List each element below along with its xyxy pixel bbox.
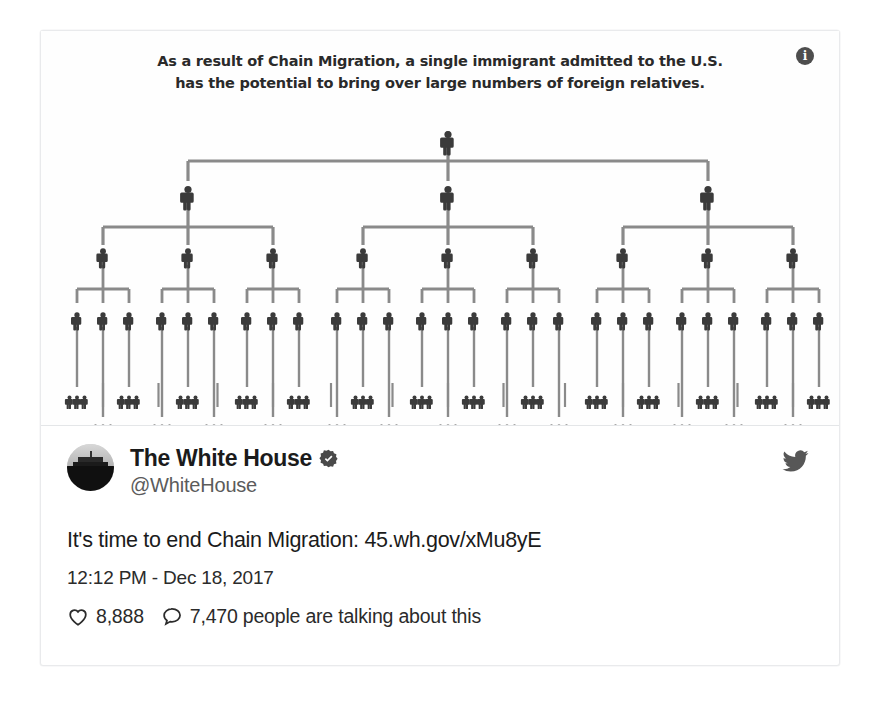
tree-person-figure bbox=[351, 396, 359, 410]
tree-person-figure bbox=[325, 425, 333, 426]
tweet-header: The White House @WhiteHouse bbox=[67, 444, 813, 498]
tree-person-figure bbox=[547, 425, 555, 426]
account-display-name[interactable]: The White House bbox=[130, 445, 312, 471]
tree-person-figure bbox=[462, 396, 470, 410]
tree-person-figure bbox=[685, 425, 693, 426]
heart-icon bbox=[67, 606, 89, 628]
tree-person-figure bbox=[536, 396, 544, 410]
tree-person-figure bbox=[626, 425, 634, 426]
tree-person-figure bbox=[562, 425, 570, 426]
tree-person-figure bbox=[183, 396, 191, 410]
tree-person-figure bbox=[755, 396, 763, 410]
tree-person-figure bbox=[592, 396, 600, 410]
tweet-body: The White House @WhiteHouse It's time to… bbox=[41, 426, 839, 628]
tree-person-figure bbox=[585, 396, 593, 410]
tree-person-figure bbox=[554, 425, 562, 426]
tree-person-figure bbox=[98, 425, 106, 426]
account-name-block: The White House @WhiteHouse bbox=[130, 444, 338, 498]
tree-person-figure bbox=[781, 425, 789, 426]
tree-person-figure bbox=[436, 425, 444, 426]
chain-migration-graphic: As a result of Chain Migration, a single… bbox=[41, 31, 839, 426]
tree-person-figure bbox=[521, 396, 529, 410]
avatar-foreground bbox=[67, 466, 114, 491]
tree-person-figure bbox=[235, 396, 243, 410]
tree-person-figure bbox=[822, 396, 830, 410]
tree-person-figure bbox=[814, 396, 822, 410]
tree-person-figure bbox=[410, 396, 418, 410]
like-stat[interactable]: 8,888 bbox=[67, 605, 144, 628]
tree-person-figure bbox=[788, 425, 796, 426]
tree-person-figure bbox=[332, 425, 340, 426]
tree-person-figure bbox=[644, 396, 652, 410]
tree-person-figure bbox=[618, 425, 626, 426]
tweet-stats: 8,888 7,470 people are talking about thi… bbox=[67, 605, 813, 628]
tree-person-figure bbox=[276, 425, 284, 426]
tree-person-figure bbox=[384, 425, 392, 426]
tree-person-figure bbox=[340, 425, 348, 426]
tree-person-figure bbox=[132, 396, 140, 410]
twitter-bird-icon[interactable] bbox=[780, 448, 811, 474]
tree-person-figure bbox=[377, 425, 385, 426]
tree-person-figure bbox=[80, 396, 88, 410]
tree-person-figure bbox=[242, 396, 250, 410]
tree-person-figure bbox=[417, 396, 425, 410]
tree-person-figure bbox=[451, 425, 459, 426]
tree-person-figure bbox=[261, 425, 269, 426]
tree-person-figure bbox=[703, 396, 711, 410]
tree-person-figure bbox=[91, 425, 99, 426]
tree-person-figure bbox=[106, 425, 114, 426]
tree-person-figure bbox=[670, 425, 678, 426]
tree-person-figure bbox=[652, 396, 660, 410]
tree-person-figure bbox=[762, 396, 770, 410]
tree-person-figure bbox=[124, 396, 132, 410]
tree-person-figure bbox=[796, 425, 804, 426]
tree-person-figure bbox=[722, 425, 730, 426]
tree-person-figure bbox=[637, 396, 645, 410]
tree-person-figure bbox=[677, 425, 685, 426]
tree-person-figure bbox=[72, 396, 80, 410]
tree-person-figure bbox=[150, 425, 158, 426]
verified-badge-icon bbox=[319, 449, 338, 468]
tree-person-figure bbox=[358, 396, 366, 410]
tree-person-figure bbox=[502, 425, 510, 426]
tree-person-figure bbox=[600, 396, 608, 410]
tree-person-figure bbox=[217, 425, 225, 426]
reply-count: 7,470 people are talking about this bbox=[190, 605, 481, 628]
like-count: 8,888 bbox=[96, 605, 144, 628]
tree-person-figure bbox=[366, 396, 374, 410]
tree-person-figure bbox=[443, 425, 451, 426]
tree-person-figure bbox=[469, 396, 477, 410]
tree-person-figure bbox=[495, 425, 503, 426]
tree-person-figure bbox=[729, 425, 737, 426]
tree-person-figure bbox=[157, 425, 165, 426]
tree-person-figure bbox=[510, 425, 518, 426]
tree-person-figure bbox=[696, 396, 704, 410]
family-tree-diagram bbox=[41, 31, 839, 425]
tree-person-figure bbox=[807, 396, 815, 410]
screenshot-root: As a result of Chain Migration, a single… bbox=[0, 0, 881, 710]
tree-person-figure bbox=[176, 396, 184, 410]
tree-person-figure bbox=[302, 396, 310, 410]
account-handle[interactable]: @WhiteHouse bbox=[130, 472, 338, 498]
tree-person-figure bbox=[392, 425, 400, 426]
tree-person-figure bbox=[202, 425, 210, 426]
white-house-avatar[interactable] bbox=[67, 444, 114, 491]
tree-person-figure bbox=[611, 425, 619, 426]
tree-person-figure bbox=[477, 396, 485, 410]
tree-person-figure bbox=[165, 425, 173, 426]
tree-person-figure bbox=[737, 425, 745, 426]
tree-person-figure bbox=[117, 396, 125, 410]
tree-person-figure bbox=[65, 396, 73, 410]
tree-person-figure bbox=[528, 396, 536, 410]
tree-person-figure bbox=[294, 396, 302, 410]
tweet-timestamp[interactable]: 12:12 PM - Dec 18, 2017 bbox=[67, 567, 813, 589]
reply-stat[interactable]: 7,470 people are talking about this bbox=[161, 605, 481, 628]
tree-person-figure bbox=[250, 396, 258, 410]
tree-person-figure bbox=[711, 396, 719, 410]
tweet-text[interactable]: It's time to end Chain Migration: 45.wh.… bbox=[67, 527, 813, 554]
tree-figures-level-5 bbox=[91, 425, 804, 426]
reply-icon bbox=[161, 606, 183, 628]
tree-person-figure bbox=[287, 396, 295, 410]
tree-person-figure bbox=[425, 396, 433, 410]
tree-person-figure bbox=[209, 425, 217, 426]
